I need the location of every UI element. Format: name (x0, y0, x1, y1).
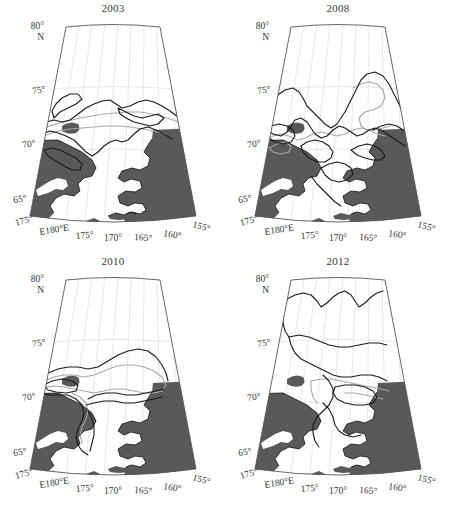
lat-label-pole-n: N (37, 285, 44, 295)
figure-sea-ice-maps: 2003 (0, 0, 451, 506)
lat-label-65: 65° (13, 446, 28, 458)
lon-label-180: E180°E (39, 222, 70, 237)
lon-label-175e: 175° (14, 466, 34, 481)
lon-label-165: 165° (359, 232, 378, 243)
map-graphic: 80° N 75° 70° 65° 175° E180°E 175° 170° … (0, 0, 226, 253)
lat-label-65: 65° (238, 446, 253, 458)
lat-label-75: 75° (32, 84, 47, 96)
lat-label-75: 75° (32, 337, 47, 349)
lat-label-70: 70° (247, 138, 262, 150)
lon-label-155: 155° (191, 472, 211, 486)
lon-label-155: 155° (416, 219, 436, 233)
lat-label-80: 80° (256, 274, 270, 284)
lon-label-165: 165° (134, 232, 153, 243)
lon-label-175w: 175° (300, 482, 319, 494)
lat-label-65: 65° (13, 193, 28, 205)
lon-label-165: 165° (359, 485, 378, 496)
map-graphic: 80° N 75° 70° 65° 175° E180°E 175° 170° … (225, 253, 451, 506)
lat-label-pole-n: N (262, 32, 269, 42)
map-panel-2003: 2003 (0, 0, 226, 253)
lon-label-180: E180°E (264, 222, 295, 237)
lon-label-155: 155° (191, 219, 211, 233)
lon-label-175w: 175° (300, 229, 319, 241)
lon-label-160: 160° (388, 481, 408, 494)
lon-label-170: 170° (329, 233, 347, 243)
map-panel-2008: 2008 (225, 0, 451, 253)
map-graphic: 80° N 75° 70° 65° 175° E180°E 175° 170° … (225, 0, 451, 253)
lat-label-70: 70° (247, 391, 262, 403)
lon-label-160: 160° (388, 228, 408, 241)
lon-label-160: 160° (163, 228, 183, 241)
lat-label-pole-n: N (262, 285, 269, 295)
lon-label-155: 155° (416, 472, 436, 486)
map-panel-2010: 2010 (0, 253, 226, 506)
lon-label-180: E180°E (264, 475, 295, 490)
lon-label-165: 165° (134, 485, 153, 496)
lat-label-pole-n: N (37, 32, 44, 42)
lon-label-175e: 175° (239, 213, 259, 228)
lat-label-75: 75° (257, 337, 272, 349)
map-graphic: 80° N 75° 70° 65° 175° E180°E 175° 170° … (0, 253, 226, 506)
lon-label-175w: 175° (75, 229, 94, 241)
lon-label-180: E180°E (39, 475, 70, 490)
lat-label-80: 80° (31, 274, 45, 284)
lat-label-70: 70° (22, 391, 37, 403)
lon-label-170: 170° (104, 233, 122, 243)
lon-label-170: 170° (104, 486, 122, 496)
lon-label-160: 160° (163, 481, 183, 494)
lat-label-80: 80° (256, 21, 270, 31)
lat-label-80: 80° (31, 21, 45, 31)
map-panel-2012: 2012 (225, 253, 451, 506)
lon-label-170: 170° (329, 486, 347, 496)
lon-label-175e: 175° (239, 466, 259, 481)
lat-label-75: 75° (257, 84, 272, 96)
lat-label-65: 65° (238, 193, 253, 205)
lon-label-175e: 175° (14, 213, 34, 228)
lon-label-175w: 175° (75, 482, 94, 494)
lat-label-70: 70° (22, 138, 37, 150)
